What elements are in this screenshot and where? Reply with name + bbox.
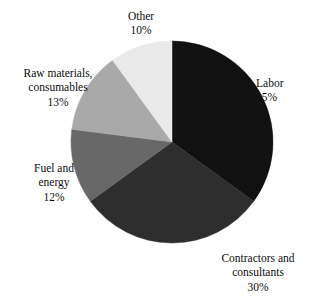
pie-slice-label-fuel-energy-name-line2: energy — [12, 175, 96, 189]
pie-slice-label-other: Other 10% — [98, 9, 184, 38]
pie-slice-label-raw-materials-value: 13% — [2, 95, 114, 109]
pie-slice-label-contractors-name-line2: consultants — [198, 265, 318, 279]
pie-slice-label-contractors-value: 30% — [198, 280, 318, 294]
pie-slice-label-fuel-energy-value: 12% — [12, 190, 96, 204]
pie-slice-label-labor-value: 35% — [256, 90, 318, 104]
pie-slice-label-other-value: 10% — [98, 23, 184, 37]
pie-slice-label-contractors-name: Contractors and — [198, 251, 318, 265]
pie-slice-label-labor: Labor 35% — [256, 76, 318, 105]
pie-slice-label-raw-materials-name-line2: consumables — [2, 80, 114, 94]
pie-slice-label-labor-name: Labor — [256, 76, 318, 90]
pie-slice-label-fuel-energy: Fuel and energy 12% — [12, 161, 96, 204]
pie-slice-label-raw-materials: Raw materials, consumables 13% — [2, 66, 114, 109]
pie-slice-label-contractors: Contractors and consultants 30% — [198, 251, 318, 294]
pie-slice-label-other-name: Other — [98, 9, 184, 23]
pie-slice-label-fuel-energy-name: Fuel and — [12, 161, 96, 175]
pie-slice-label-raw-materials-name: Raw materials, — [2, 66, 114, 80]
pie-chart-figure: Other 10% Labor 35% Raw materials, consu… — [0, 0, 320, 300]
